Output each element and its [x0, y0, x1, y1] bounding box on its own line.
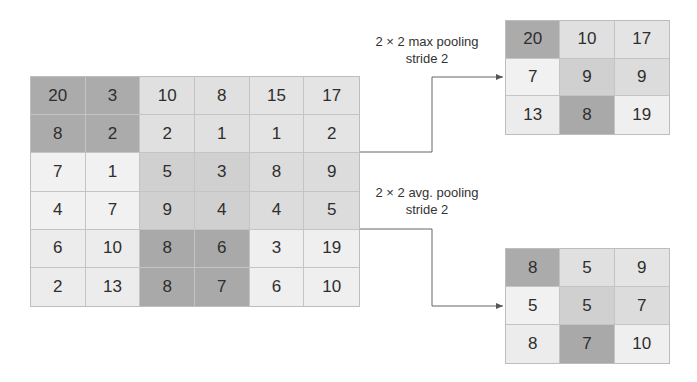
max-pool-arrow [360, 77, 503, 152]
avg-pool-arrow [360, 229, 503, 306]
connector-arrows [0, 0, 697, 382]
